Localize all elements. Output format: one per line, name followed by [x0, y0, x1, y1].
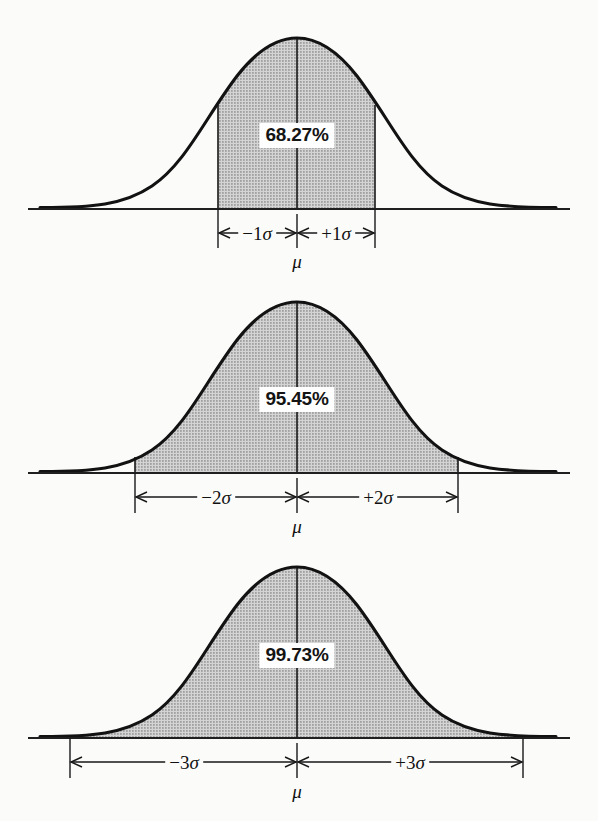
sigma-label-minus-3: −3σ — [165, 753, 203, 772]
sigma-label-plus-3-sign: +3 — [395, 752, 415, 773]
percent-label-three-sigma: 99.73% — [259, 643, 334, 668]
sigma-label-minus-3-symbol: σ — [189, 752, 198, 773]
sigma-label-minus-2-symbol: σ — [221, 487, 230, 508]
sigma-label-plus-2-symbol: σ — [383, 487, 392, 508]
sigma-label-plus-3: +3σ — [391, 753, 429, 772]
sigma-label-minus-2-sign: −2 — [201, 487, 221, 508]
sigma-label-minus-1: −1σ — [238, 224, 276, 243]
percent-label-one-sigma: 68.27% — [259, 123, 334, 148]
sigma-label-plus-2: +2σ — [359, 488, 397, 507]
sigma-label-plus-2-sign: +2 — [363, 487, 383, 508]
sigma-label-minus-1-sign: −1 — [242, 223, 262, 244]
sigma-label-minus-1-symbol: σ — [262, 223, 271, 244]
panel-one-sigma: 68.27% −1σ +1σ μ — [0, 0, 598, 274]
sigma-label-minus-3-sign: −3 — [169, 752, 189, 773]
sigma-label-plus-3-symbol: σ — [415, 752, 424, 773]
mu-label-three-sigma: μ — [292, 782, 302, 801]
panel-two-sigma: 95.45% −2σ +2σ μ — [0, 265, 598, 540]
sigma-label-plus-1-symbol: σ — [341, 223, 350, 244]
sigma-label-plus-1: +1σ — [317, 224, 355, 243]
sigma-label-minus-2: −2σ — [197, 488, 235, 507]
panel-three-sigma-plot — [0, 523, 598, 821]
panel-three-sigma: 99.73% −3σ +3σ μ — [0, 523, 598, 821]
normal-distribution-figure: 68.27% −1σ +1σ μ — [0, 0, 598, 821]
sigma-label-plus-1-sign: +1 — [321, 223, 341, 244]
percent-label-two-sigma: 95.45% — [259, 387, 334, 412]
